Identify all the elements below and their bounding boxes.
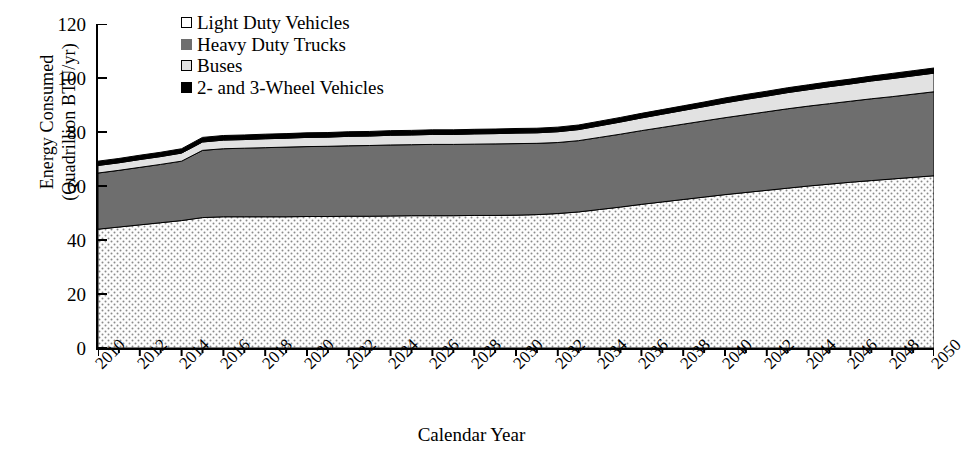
legend-item-light-duty-vehicles[interactable]: Light Duty Vehicles — [181, 12, 384, 34]
legend-swatch-black-icon — [181, 82, 192, 93]
y-tick-label-60: 60 — [40, 177, 86, 196]
legend-item-heavy-duty-trucks[interactable]: Heavy Duty Trucks — [181, 34, 384, 56]
y-tick-label-120: 120 — [40, 15, 86, 34]
legend-item-buses[interactable]: Buses — [181, 55, 384, 77]
legend-label: Light Duty Vehicles — [197, 12, 350, 34]
y-tick-label-40: 40 — [40, 231, 86, 250]
legend-swatch-lightgray-icon — [181, 60, 192, 71]
legend-item-two-and-three-wheel-vehicles[interactable]: 2- and 3-Wheel Vehicles — [181, 77, 384, 99]
legend-label: Heavy Duty Trucks — [197, 34, 346, 56]
y-tick-label-100: 100 — [40, 69, 86, 88]
x-axis-title: Calendar Year — [0, 424, 943, 446]
caption-strip — [0, 446, 943, 455]
y-tick-label-0: 0 — [40, 339, 86, 358]
legend-label: Buses — [197, 55, 242, 77]
legend-swatch-darkgray-icon — [181, 39, 192, 50]
y-tick-label-20: 20 — [40, 285, 86, 304]
legend-swatch-dotted-icon — [181, 17, 192, 28]
chart-legend: Light Duty Vehicles Heavy Duty Trucks Bu… — [181, 12, 384, 98]
legend-label: 2- and 3-Wheel Vehicles — [197, 77, 384, 99]
y-tick-label-80: 80 — [40, 123, 86, 142]
